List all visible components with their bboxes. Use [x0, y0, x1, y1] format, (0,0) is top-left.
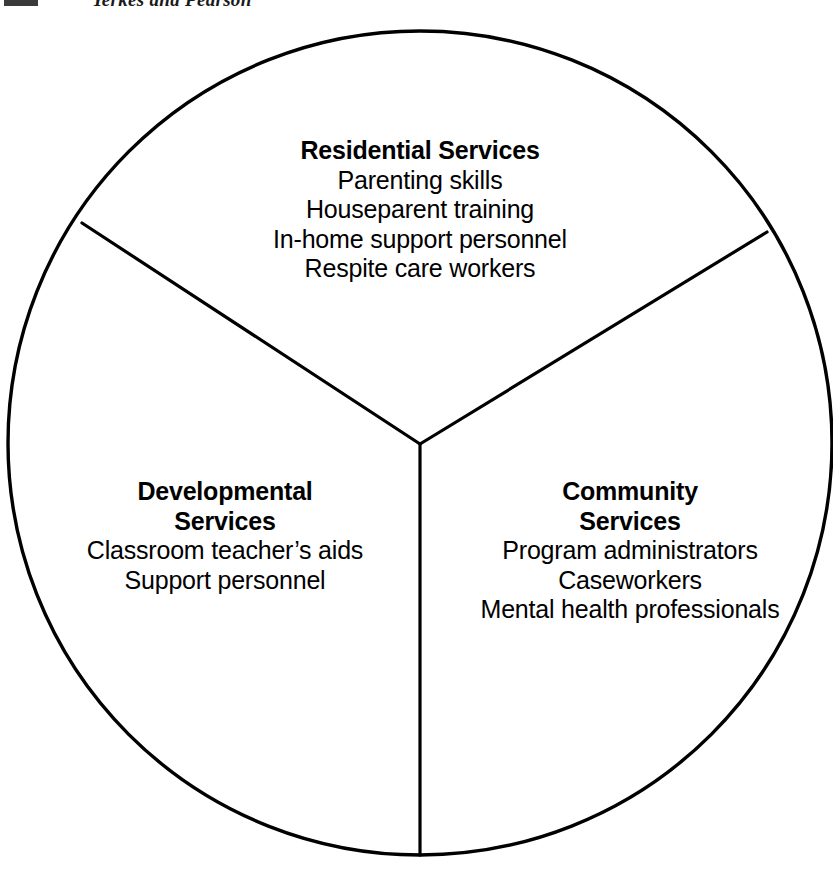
sector-label-residential: Residential Services Parenting skills Ho…	[155, 136, 685, 284]
sector-title-community-line1: Community	[440, 477, 820, 507]
sector-title-developmental-line1: Developmental	[35, 477, 415, 507]
sector-item-developmental-2: Support personnel	[35, 566, 415, 596]
pie-diagram: Residential Services Parenting skills Ho…	[0, 0, 833, 871]
sector-item-residential-4: Respite care workers	[155, 254, 685, 284]
sector-item-residential-1: Parenting skills	[155, 166, 685, 196]
sector-title-developmental-line2: Services	[35, 507, 415, 537]
sector-item-community-3: Mental health professionals	[440, 595, 820, 625]
sector-label-community: Community Services Program administrator…	[440, 477, 820, 625]
pie-diagram-svg	[0, 0, 833, 871]
sector-title-community-line2: Services	[440, 507, 820, 537]
sector-item-residential-2: Houseparent training	[155, 195, 685, 225]
sector-title-residential: Residential Services	[155, 136, 685, 166]
sector-item-community-1: Program administrators	[440, 536, 820, 566]
sector-item-developmental-1: Classroom teacher’s aids	[35, 536, 415, 566]
sector-item-residential-3: In-home support personnel	[155, 225, 685, 255]
sector-label-developmental: Developmental Services Classroom teacher…	[35, 477, 415, 595]
sector-item-community-2: Caseworkers	[440, 566, 820, 596]
